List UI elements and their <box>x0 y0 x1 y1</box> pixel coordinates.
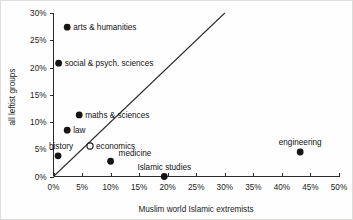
data-point-marker <box>55 152 62 159</box>
x-tick-label: 45% <box>302 183 318 192</box>
x-tick-label: 5% <box>76 183 88 192</box>
data-point-markers <box>55 24 304 180</box>
y-tick-label: 10% <box>30 118 46 127</box>
data-point-marker <box>107 158 114 165</box>
x-axis-group: 0%5%10%15%20%25%30%35%40%45%50% <box>48 173 348 192</box>
y-axis-title: all leftist groups <box>8 69 17 126</box>
data-point-label: medicine <box>119 149 152 158</box>
data-point-label: maths & sciences <box>85 111 149 120</box>
data-point-marker <box>64 24 71 31</box>
y-axis-ticks <box>50 14 54 178</box>
data-point-marker <box>297 149 304 156</box>
y-axis-tick-labels: 0%5%10%15%20%25%30% <box>30 9 46 182</box>
x-tick-label: 20% <box>160 183 176 192</box>
data-point-marker <box>76 112 83 119</box>
x-tick-label: 15% <box>131 183 147 192</box>
y-tick-label: 5% <box>35 145 47 154</box>
y-tick-label: 15% <box>30 91 46 100</box>
y-axis-group: 0%5%10%15%20%25%30% <box>30 9 53 182</box>
x-tick-label: 50% <box>331 183 347 192</box>
data-point-label: law <box>73 126 85 135</box>
data-point-marker <box>87 143 93 149</box>
data-point-marker <box>161 173 168 180</box>
data-point-label: history <box>49 142 74 151</box>
x-axis-tick-labels: 0%5%10%15%20%25%30%35%40%45%50% <box>48 183 348 192</box>
y-tick-label: 30% <box>30 9 46 18</box>
data-point-label: arts & humanities <box>73 23 136 32</box>
data-point-label: Islamic studies <box>137 163 191 172</box>
data-point-label: engineering <box>279 138 322 147</box>
x-axis-ticks <box>54 173 340 177</box>
x-tick-label: 30% <box>217 183 233 192</box>
scatter-plot-svg: 0%5%10%15%20%25%30% 0%5%10%15%20%25%30%3… <box>1 1 353 220</box>
chart-figure: 0%5%10%15%20%25%30% 0%5%10%15%20%25%30%3… <box>0 0 353 220</box>
y-tick-label: 0% <box>35 173 47 182</box>
x-tick-label: 35% <box>245 183 261 192</box>
data-point-label: social & psych. sciences <box>65 59 154 68</box>
y-tick-label: 20% <box>30 64 46 73</box>
data-point-marker <box>64 127 71 134</box>
data-point-marker <box>55 60 62 67</box>
y-tick-label: 25% <box>30 36 46 45</box>
x-axis-title: Muslim world Islamic extremists <box>138 205 253 214</box>
x-tick-label: 0% <box>48 183 60 192</box>
x-tick-label: 25% <box>188 183 204 192</box>
x-tick-label: 10% <box>102 183 118 192</box>
x-tick-label: 40% <box>274 183 290 192</box>
